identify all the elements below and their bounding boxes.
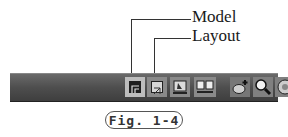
model-callout-label: Model [192, 8, 236, 25]
pan-hand-icon [231, 78, 249, 96]
quick-view-drawings-button[interactable] [194, 77, 216, 97]
zoom-button[interactable] [253, 77, 273, 97]
model-callout-line-v [131, 19, 132, 77]
magnifier-icon [254, 78, 272, 96]
quick-view-drawings-icon [196, 79, 214, 95]
layout-button[interactable] [147, 77, 167, 97]
layout-callout-line-h [154, 38, 191, 39]
quick-view-layouts-icon [172, 79, 188, 95]
model-space-button[interactable] [125, 77, 145, 97]
steering-wheel-icon [275, 78, 288, 96]
layout-icon [151, 81, 163, 93]
model-callout-line-h [131, 19, 191, 20]
pan-button[interactable] [230, 77, 250, 97]
quick-view-layouts-button[interactable] [170, 77, 190, 97]
model-icon [129, 81, 141, 93]
figure-caption: Fig. 1-4 [105, 111, 183, 129]
layout-callout-label: Layout [192, 27, 240, 44]
layout-callout-line-v [154, 38, 155, 77]
steering-wheel-button[interactable] [275, 77, 288, 97]
status-bar [10, 73, 278, 102]
